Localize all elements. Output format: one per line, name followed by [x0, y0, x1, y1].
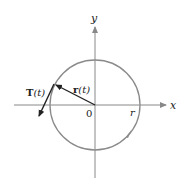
direction-arrow-icon: [126, 129, 132, 138]
origin-label: 0: [86, 108, 92, 119]
y-axis-label: y: [90, 12, 98, 25]
x-axis-label: x: [170, 99, 177, 112]
position-vector-label: r(t): [73, 84, 90, 95]
circle-diagram: y x 0 r r(t) T(t): [0, 0, 189, 192]
tangent-vector-label: T(t): [26, 87, 45, 98]
radius-label: r: [130, 107, 136, 118]
